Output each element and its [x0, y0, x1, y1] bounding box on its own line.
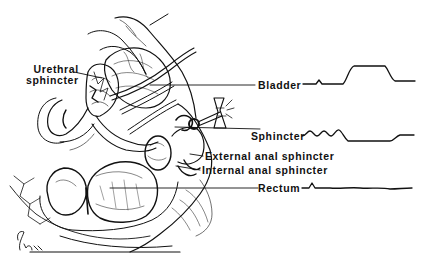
label-urethral-sphincter: Urethral sphincter	[26, 64, 79, 86]
anal-canal	[145, 116, 204, 176]
pubic-bone	[86, 64, 119, 116]
sphincter-probe	[198, 98, 234, 128]
artist-signature	[17, 231, 42, 250]
pelvic-anatomy-diagram	[0, 0, 426, 265]
label-urethral-line2: sphincter	[26, 75, 79, 86]
label-external-anal-sphincter: External anal sphincter	[205, 151, 334, 162]
label-internal-anal-sphincter: Internal anal sphincter	[202, 165, 328, 176]
rectum	[40, 162, 178, 231]
sphincter-pressure-tracing	[302, 130, 414, 141]
label-bladder: Bladder	[258, 80, 301, 91]
rectum-pressure-tracing	[302, 183, 412, 189]
bladder-pressure-tracing	[303, 66, 415, 84]
label-rectum: Rectum	[258, 183, 300, 194]
vaginal-canal	[60, 116, 158, 151]
label-sphincter: Sphincter	[251, 131, 305, 142]
